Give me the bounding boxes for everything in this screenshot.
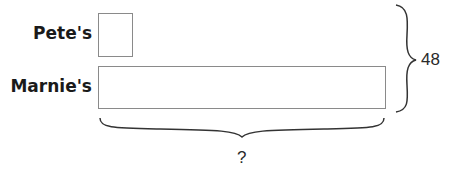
bottom-brace-icon: [100, 118, 384, 137]
total-value: 48: [421, 50, 440, 70]
right-brace-icon: [396, 5, 416, 112]
unknown-value: ?: [237, 148, 246, 168]
braces: [0, 0, 453, 170]
